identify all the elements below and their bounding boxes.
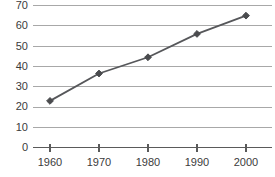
y-tick-label-40: 40: [16, 60, 28, 72]
data-point-1960: [47, 98, 54, 105]
y-tick-label-10: 10: [16, 121, 28, 133]
y-tick-label-0: 0: [22, 141, 28, 153]
data-point-2000: [243, 12, 250, 19]
x-tick-label-1980: 1980: [136, 156, 160, 168]
data-point-1980: [145, 54, 152, 61]
line-chart: 70 60 50 40 30 20 10 0 1960 1970 1980 19…: [0, 0, 275, 177]
y-tick-label-50: 50: [16, 40, 28, 52]
data-point-1970: [96, 70, 103, 77]
x-tick-label-1990: 1990: [185, 156, 209, 168]
x-tick-label-1970: 1970: [87, 156, 111, 168]
y-axis-labels: 70 60 50 40 30 20 10 0: [16, 0, 28, 153]
y-tick-label-60: 60: [16, 19, 28, 31]
y-tick-label-70: 70: [16, 0, 28, 11]
x-tick-label-2000: 2000: [234, 156, 258, 168]
gridlines: [33, 6, 272, 128]
data-point-1990: [194, 31, 201, 38]
x-axis-labels: 1960 1970 1980 1990 2000: [38, 156, 258, 168]
chart-canvas: 70 60 50 40 30 20 10 0 1960 1970 1980 19…: [0, 0, 275, 177]
x-tick-label-1960: 1960: [38, 156, 62, 168]
y-tick-label-30: 30: [16, 80, 28, 92]
y-tick-label-20: 20: [16, 100, 28, 112]
